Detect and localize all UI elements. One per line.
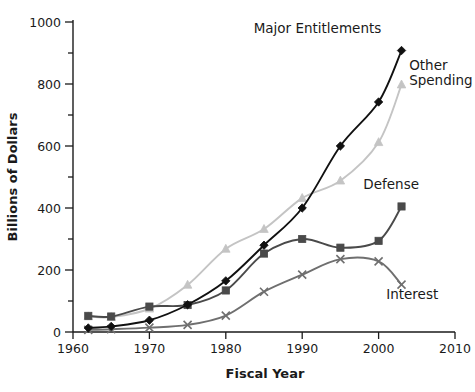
series-line [88, 206, 401, 317]
marker-triangle [222, 244, 230, 252]
series-label-line: Spending [409, 72, 472, 88]
marker-x [222, 312, 230, 320]
marker-square [222, 287, 229, 294]
marker-triangle [260, 224, 268, 232]
line-chart: 02004006008001000 1960197019801990200020… [0, 0, 475, 392]
y-tick-label: 1000 [29, 15, 61, 30]
marker-square [260, 250, 267, 257]
y-tick-label: 200 [37, 263, 61, 278]
marker-square [146, 303, 153, 310]
y-tick-label: 600 [37, 139, 61, 154]
series-defense [85, 203, 405, 320]
marker-square [108, 313, 115, 320]
series-interest [84, 255, 405, 334]
series-line [88, 51, 401, 328]
series-label-other-spending: OtherSpending [409, 57, 472, 88]
marker-square [337, 244, 344, 251]
marker-diamond [397, 46, 405, 54]
y-tick-group: 02004006008001000 [29, 15, 73, 340]
x-tick-label: 1980 [210, 341, 242, 356]
marker-x [298, 271, 306, 279]
marker-square [375, 237, 382, 244]
series-line [88, 258, 401, 330]
marker-triangle [336, 176, 344, 184]
chart-container: 02004006008001000 1960197019801990200020… [0, 0, 475, 392]
marker-square [299, 235, 306, 242]
x-axis-title: Fiscal Year [226, 366, 305, 381]
series-major-entitlements [84, 46, 406, 332]
marker-diamond [84, 324, 92, 332]
marker-diamond [145, 316, 153, 324]
marker-square [85, 312, 92, 319]
x-tick-label: 2010 [439, 341, 471, 356]
marker-x [375, 257, 383, 265]
series-group [84, 46, 406, 334]
x-tick-label: 1990 [286, 341, 318, 356]
series-label-defense: Defense [363, 176, 419, 192]
x-tick-group: 196019701980199020002010 [57, 332, 471, 356]
y-axis-title: Billions of Dollars [5, 112, 20, 241]
series-label-interest: Interest [386, 286, 438, 302]
x-tick-label: 1970 [133, 341, 165, 356]
series-label-line: Other [409, 57, 448, 73]
x-tick-label: 2000 [363, 341, 395, 356]
y-tick-label: 0 [53, 325, 61, 340]
y-tick-label: 800 [37, 77, 61, 92]
marker-triangle [397, 80, 405, 88]
marker-x [260, 288, 268, 296]
series-label-major-entitlements: Major Entitlements [254, 20, 382, 36]
series-line [88, 85, 401, 318]
series-other-spending [84, 80, 406, 320]
y-tick-label: 400 [37, 201, 61, 216]
marker-square [398, 203, 405, 210]
x-tick-label: 1960 [57, 341, 89, 356]
